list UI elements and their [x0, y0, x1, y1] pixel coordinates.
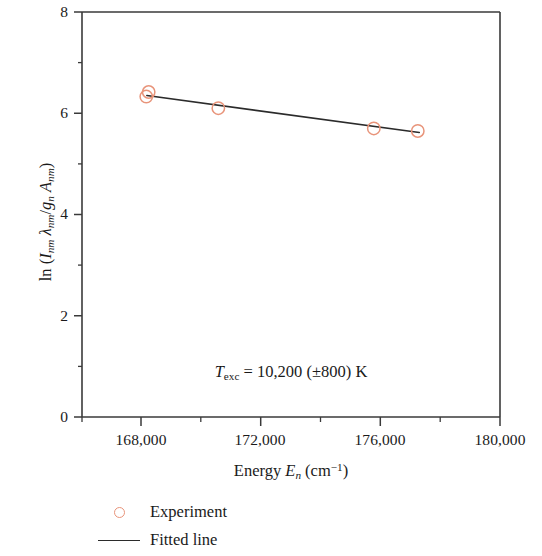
data-point	[368, 122, 380, 134]
y-title-lambda-subscript: nm	[44, 215, 56, 229]
x-title-E-subscript: n	[295, 469, 301, 481]
y-title-A-symbol: A	[36, 182, 55, 192]
x-title-E-symbol: E	[285, 461, 295, 480]
axes-frame	[82, 12, 500, 417]
x-title-unit-exponent: −1	[331, 461, 343, 473]
x-title-unit-open: (cm	[305, 461, 331, 480]
annotation-value: = 10,200 (±800) K	[244, 362, 368, 381]
x-axis-title: Energy En (cm−1)	[82, 461, 500, 481]
legend-label-fitted-line: Fitted line	[150, 530, 217, 550]
y-tick-label-0: 0	[48, 409, 68, 425]
x-tick-label-176000: 176,000	[335, 432, 425, 448]
y-tick-label-8: 8	[48, 4, 68, 20]
chart-legend: Experiment Fitted line	[88, 498, 388, 554]
y-title-I-symbol: I	[36, 253, 55, 259]
legend-key-experiment	[88, 507, 150, 518]
open-circle-marker-icon	[114, 507, 125, 518]
legend-item-fitted-line: Fitted line	[88, 526, 388, 554]
y-title-A-subscript: nm	[44, 168, 56, 182]
annotation-T-subscript: exc	[224, 370, 240, 382]
y-axis-title: ln (Inm λnm/gn Anm)	[36, 72, 56, 372]
y-title-g-symbol: g	[36, 202, 55, 210]
x-tick-label-168000: 168,000	[96, 432, 186, 448]
legend-key-fitted-line	[88, 540, 150, 541]
y-title-g-subscript: n	[44, 196, 56, 202]
y-title-slash: /	[36, 210, 55, 215]
excitation-temperature-annotation: Texc = 10,200 (±800) K	[82, 362, 500, 382]
x-title-unit-close: )	[343, 461, 349, 480]
data-point	[212, 102, 224, 114]
x-tick-label-180000: 180,000	[455, 432, 542, 448]
y-major-ticks	[74, 12, 82, 417]
x-tick-label-172000: 172,000	[215, 432, 305, 448]
line-sample-icon	[98, 540, 140, 541]
y-title-lambda-symbol: λ	[36, 228, 55, 235]
fitted-line	[147, 96, 419, 133]
boltzmann-plot-figure: 8 6 4 2 0 168,000 172,000 176,000 180,00…	[0, 0, 542, 556]
experiment-data-markers	[140, 86, 424, 137]
x-title-word: Energy	[234, 461, 281, 480]
annotation-T-symbol: T	[215, 362, 224, 381]
y-title-suffix: )	[36, 163, 55, 169]
legend-item-experiment: Experiment	[88, 498, 388, 526]
y-title-prefix: ln (	[36, 259, 55, 281]
legend-label-experiment: Experiment	[150, 502, 227, 522]
y-title-I-subscript: nm	[44, 240, 56, 254]
